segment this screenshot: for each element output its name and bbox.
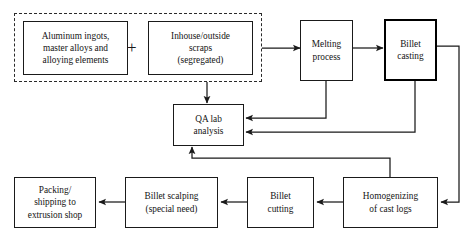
- node-packing-shipping[interactable]: Packing/ shipping to extrusion shop: [14, 177, 96, 228]
- flowchart-canvas: Aluminum ingots, master alloys and alloy…: [0, 0, 470, 242]
- node-homogenizing-label: Homogenizing of cast logs: [363, 190, 418, 215]
- node-billet-cutting[interactable]: Billet cutting: [247, 177, 314, 228]
- node-packing-shipping-label: Packing/ shipping to extrusion shop: [28, 184, 83, 221]
- edge-melting-to-qa: [246, 81, 326, 118]
- node-qa-lab-analysis[interactable]: QA lab analysis: [173, 104, 244, 146]
- edge-casting-to-homogenizing: [437, 46, 459, 202]
- edge-casting-to-qa: [246, 81, 415, 132]
- node-melting-process[interactable]: Melting process: [300, 20, 353, 81]
- node-billet-scalping[interactable]: Billet scalping (special need): [125, 177, 218, 228]
- node-ingots[interactable]: Aluminum ingots, master alloys and alloy…: [23, 21, 128, 75]
- edge-homogenizing-to-qa: [192, 147, 390, 177]
- node-scraps[interactable]: Inhouse/outside scraps (segregated): [148, 21, 253, 75]
- node-billet-casting[interactable]: Billet casting: [384, 19, 437, 81]
- node-qa-lab-analysis-label: QA lab analysis: [194, 113, 224, 138]
- node-ingots-label: Aluminum ingots, master alloys and alloy…: [42, 30, 110, 67]
- node-melting-process-label: Melting process: [312, 38, 341, 63]
- node-scraps-label: Inhouse/outside scraps (segregated): [171, 30, 230, 67]
- node-homogenizing[interactable]: Homogenizing of cast logs: [343, 177, 438, 228]
- plus-operator: +: [127, 39, 137, 56]
- node-billet-casting-label: Billet casting: [397, 38, 423, 63]
- node-billet-cutting-label: Billet cutting: [268, 190, 294, 215]
- node-billet-scalping-label: Billet scalping (special need): [145, 190, 199, 215]
